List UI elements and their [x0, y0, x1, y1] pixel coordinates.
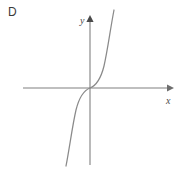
x-axis-label: x [166, 96, 170, 106]
x-axis-arrowhead-icon [167, 84, 174, 91]
y-axis-arrowhead-icon [86, 15, 93, 22]
coordinate-plane-svg [0, 0, 182, 176]
y-axis-label: y [80, 16, 84, 26]
graph-figure: D y x [0, 0, 182, 176]
choice-letter-label: D [8, 6, 17, 18]
